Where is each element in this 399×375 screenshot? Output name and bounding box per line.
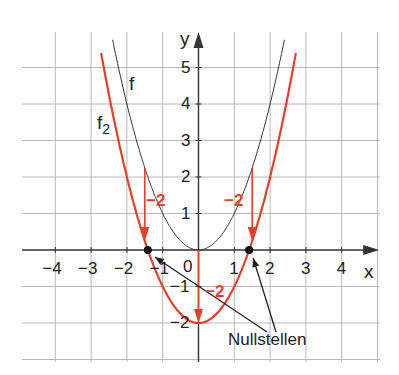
roots-label: Nullstellen	[228, 331, 306, 348]
x-axis-label: x	[364, 262, 374, 281]
y-tick-label: 3	[181, 132, 190, 149]
root-point	[144, 246, 152, 254]
y-axis-label: y	[180, 29, 190, 48]
y-tick-label: 2	[181, 168, 190, 185]
y-tick-label: −1	[170, 278, 189, 295]
x-tick-label: 1	[229, 260, 238, 277]
x-tick-label: 2	[265, 260, 274, 277]
curve-f2-subscript: 2	[102, 121, 110, 137]
curve-f-label: f	[129, 74, 134, 93]
x-axis-arrow-icon	[363, 245, 379, 255]
shift-label-center: −2	[205, 283, 224, 300]
function-graph	[0, 0, 399, 375]
y-tick-label: −2	[170, 314, 189, 331]
shift-label-right: −2	[224, 192, 243, 209]
x-tick-label: −4	[42, 260, 61, 277]
arrow-down-icon	[194, 309, 203, 323]
x-tick-label: −3	[78, 260, 97, 277]
curve-f2-label: f2	[97, 113, 110, 136]
y-tick-label: 5	[181, 59, 190, 76]
y-tick-label: 1	[181, 205, 190, 222]
x-tick-label: 3	[301, 260, 310, 277]
root-point	[245, 246, 253, 254]
y-tick-label: 4	[181, 95, 190, 112]
x-tick-label: −2	[114, 260, 133, 277]
pointer-arrow-icon	[252, 258, 259, 268]
y-axis-arrow-icon	[194, 32, 204, 48]
x-tick-label: −1	[150, 260, 169, 277]
origin-label: 0	[183, 258, 192, 275]
x-tick-label: 4	[337, 260, 346, 277]
shift-label-left: −2	[146, 192, 165, 209]
